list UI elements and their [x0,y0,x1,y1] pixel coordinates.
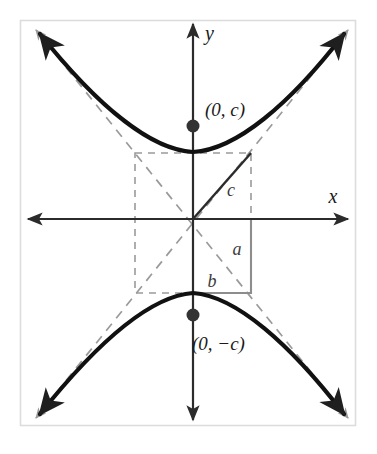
lower-focus-point [187,309,200,322]
upper-focus-label: (0, c) [205,99,245,121]
lower-focus-label: (0, −c) [192,333,245,355]
y-axis-label: y [203,22,214,45]
measure-a-label: a [233,239,242,259]
hyperbola-figure: y x (0, c) (0, −c) c a b [0,0,377,454]
measure-b-label: b [208,271,217,291]
segment-c-label: c [227,180,235,200]
figure-canvas: y x (0, c) (0, −c) c a b [0,0,377,454]
upper-focus-point [187,120,200,133]
x-axis-label: x [328,185,338,207]
